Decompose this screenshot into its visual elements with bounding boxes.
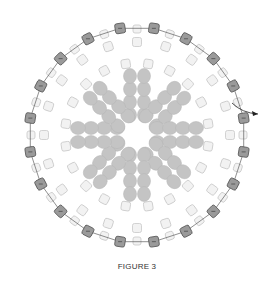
light-bead bbox=[133, 38, 142, 47]
light-bead bbox=[40, 131, 49, 140]
light-bead bbox=[121, 201, 131, 211]
light-bead bbox=[182, 180, 195, 193]
light-bead bbox=[99, 231, 109, 241]
light-bead bbox=[43, 101, 54, 112]
star-ring-beads bbox=[61, 59, 214, 212]
figure-caption: FIGURE 3 bbox=[0, 262, 274, 271]
light-bead bbox=[133, 237, 141, 245]
oval-bead bbox=[189, 122, 204, 135]
light-bead bbox=[233, 97, 243, 107]
light-bead bbox=[61, 119, 71, 129]
oval-bead bbox=[124, 187, 137, 202]
light-bead bbox=[165, 231, 175, 241]
light-bead bbox=[43, 158, 54, 169]
light-bead bbox=[61, 141, 71, 151]
oval-petal-beads bbox=[71, 69, 204, 202]
light-bead bbox=[80, 180, 93, 193]
light-bead bbox=[143, 59, 153, 69]
light-bead bbox=[195, 162, 207, 174]
light-bead bbox=[206, 74, 219, 87]
oval-bead bbox=[189, 136, 204, 149]
light-bead bbox=[164, 193, 176, 205]
light-bead bbox=[206, 183, 219, 196]
light-bead bbox=[160, 218, 171, 229]
light-bead bbox=[67, 96, 79, 108]
light-bead bbox=[133, 224, 142, 233]
oval-bead bbox=[138, 69, 151, 84]
light-bead bbox=[98, 65, 110, 77]
light-bead bbox=[103, 218, 114, 229]
light-bead bbox=[99, 29, 109, 39]
outer-ring-beads bbox=[25, 23, 250, 248]
light-bead bbox=[220, 158, 231, 169]
light-bead bbox=[98, 193, 110, 205]
light-bead bbox=[55, 183, 68, 196]
light-bead bbox=[195, 96, 207, 108]
oval-bead bbox=[71, 122, 86, 135]
light-bead bbox=[31, 163, 41, 173]
light-bead bbox=[203, 141, 213, 151]
light-bead bbox=[185, 53, 198, 66]
light-bead bbox=[31, 97, 41, 107]
light-bead bbox=[76, 204, 89, 217]
oval-bead bbox=[124, 69, 137, 84]
light-bead bbox=[143, 201, 153, 211]
light-bead bbox=[121, 59, 131, 69]
beadwork-diagram bbox=[0, 0, 274, 283]
light-bead bbox=[182, 78, 195, 91]
light-bead bbox=[67, 162, 79, 174]
light-bead bbox=[233, 163, 243, 173]
light-bead bbox=[185, 204, 198, 217]
light-bead bbox=[76, 53, 89, 66]
light-bead bbox=[103, 41, 114, 52]
light-bead bbox=[164, 65, 176, 77]
oval-bead bbox=[138, 187, 151, 202]
oval-bead bbox=[71, 136, 86, 149]
light-bead bbox=[203, 119, 213, 129]
light-bead bbox=[133, 25, 141, 33]
light-bead bbox=[165, 29, 175, 39]
light-bead bbox=[80, 78, 93, 91]
light-bead bbox=[55, 74, 68, 87]
light-bead bbox=[220, 101, 231, 112]
light-bead bbox=[160, 41, 171, 52]
figure-3-diagram: FIGURE 3 bbox=[0, 0, 274, 283]
light-bead bbox=[226, 131, 235, 140]
light-bead bbox=[27, 131, 35, 139]
light-bead bbox=[239, 131, 247, 139]
inner-ring-beads bbox=[40, 38, 235, 233]
